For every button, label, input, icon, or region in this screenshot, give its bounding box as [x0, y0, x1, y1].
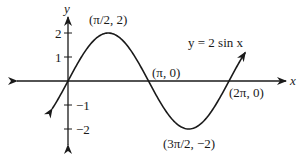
sine-graph: 2 1 −1 −2 y x (π/2, 2) (π, 0) (3π/2, −2)… [0, 0, 307, 155]
annotation-trough: (3π/2, −2) [163, 136, 215, 151]
annotation-2pi: (2π, 0) [229, 85, 264, 100]
y-tick-label-neg1: −1 [76, 98, 90, 113]
y-tick-label-2: 2 [55, 26, 62, 41]
y-tick-label-neg2: −2 [76, 122, 90, 137]
y-axis-label: y [62, 1, 70, 16]
x-axis-label: x [289, 73, 296, 88]
annotation-pi: (π, 0) [152, 65, 180, 80]
function-label: y = 2 sin x [188, 35, 244, 50]
y-tick-label-1: 1 [55, 50, 62, 65]
annotation-peak: (π/2, 2) [89, 12, 127, 27]
